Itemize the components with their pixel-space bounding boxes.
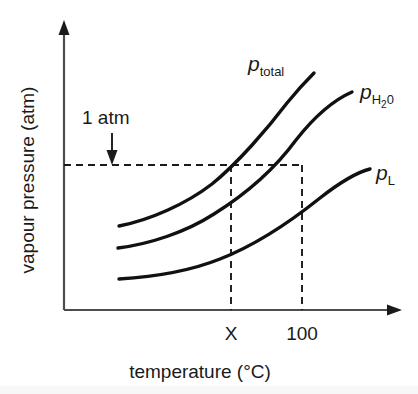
- y-axis-title: vapour pressure (atm): [17, 87, 38, 274]
- chart-svg: ptotal pH20 pL 1 atm X 100 temperature (…: [0, 0, 418, 394]
- curve-label-p-h2o-symbol: p: [359, 80, 372, 103]
- curve-label-p-l-symbol: p: [375, 161, 388, 184]
- vapour-pressure-chart: ptotal pH20 pL 1 atm X 100 temperature (…: [0, 0, 418, 394]
- curve-label-p-h2o-sub-o: 0: [387, 92, 394, 107]
- chart-background: [0, 0, 418, 394]
- x-axis-title: temperature (°C): [129, 361, 271, 382]
- bottom-edge-band: [0, 386, 418, 394]
- x-tick-label-100: 100: [286, 323, 318, 344]
- curve-label-p-l-subscript: L: [388, 173, 395, 188]
- curve-label-p-h2o-sub-h: H: [372, 92, 381, 107]
- x-tick-label-x: X: [225, 323, 238, 344]
- curve-label-p-total-subscript: total: [260, 64, 285, 79]
- one-atm-label: 1 atm: [82, 107, 130, 128]
- curve-label-p-total-symbol: p: [247, 52, 260, 75]
